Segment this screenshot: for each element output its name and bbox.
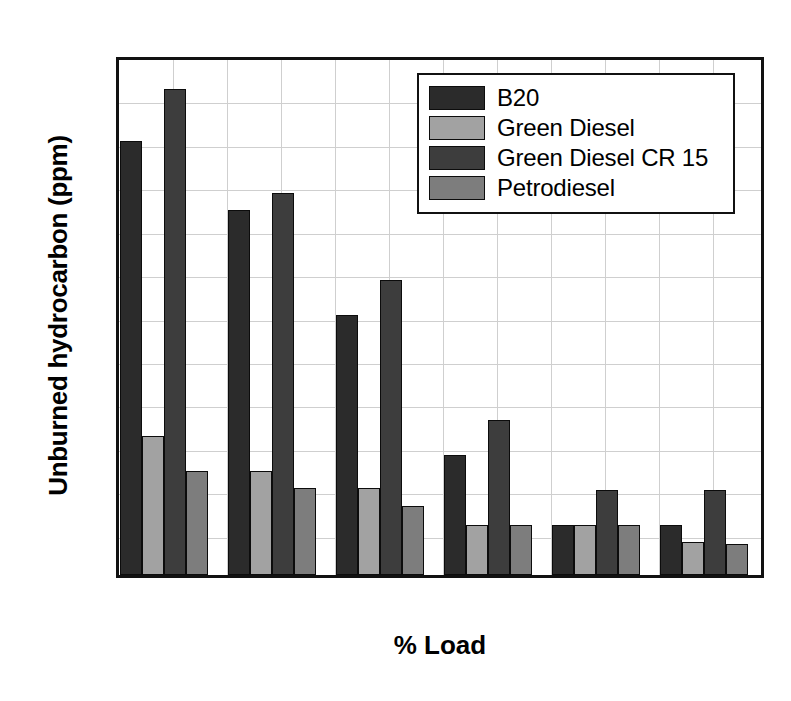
legend-swatch [429,176,485,200]
bar-petrodiesel-80 [618,525,640,575]
bar-green-diesel-cr-15-80 [596,490,618,575]
legend-label: B20 [497,84,539,112]
legend-swatch [429,86,485,110]
y-tick-major [116,493,119,496]
bar-petrodiesel-0 [186,471,208,575]
x-tick-major [280,575,283,578]
bar-petrodiesel-100 [726,544,748,575]
bar-green-diesel-80 [574,525,596,575]
gridline-horizontal [119,407,761,408]
y-tick-major [116,145,119,148]
y-tick-minor [116,189,119,192]
bar-green-diesel-cr-15-40 [380,280,402,575]
gridline-horizontal [119,494,761,495]
y-tick-major [116,59,119,62]
bar-green-diesel-60 [466,525,488,575]
x-tick-major [604,575,607,578]
legend-label: Petrodiesel [497,174,615,202]
y-tick-minor [116,276,119,279]
gridline-horizontal [119,234,761,235]
bar-green-diesel-cr-15-20 [272,193,294,575]
bar-green-diesel-20 [250,471,272,575]
x-tick-minor [334,575,337,578]
x-tick-major [712,575,715,578]
legend-item[interactable]: B20 [429,83,723,113]
y-tick-major [116,319,119,322]
bar-b20-0 [120,141,142,575]
x-tick-minor [550,575,553,578]
gridline-horizontal [119,364,761,365]
bar-chart-figure: Unburned hydrocarbon (ppm) 051015202530 … [0,0,791,701]
gridline-horizontal [119,451,761,452]
legend-label: Green Diesel [497,114,635,142]
bar-petrodiesel-60 [510,525,532,575]
y-tick-minor [116,536,119,539]
y-axis-title: Unburned hydrocarbon (ppm) [43,66,74,566]
bar-green-diesel-100 [682,542,704,575]
chart-legend: B20Green DieselGreen Diesel CR 15Petrodi… [417,73,735,214]
bar-b20-100 [660,525,682,575]
y-tick-minor [116,362,119,365]
x-tick-minor [442,575,445,578]
y-tick-major [116,232,119,235]
y-tick-minor [116,449,119,452]
bar-green-diesel-40 [358,488,380,575]
bar-b20-20 [228,210,250,575]
legend-swatch [429,116,485,140]
gridline-horizontal [119,321,761,322]
x-tick-major [172,575,175,578]
legend-item[interactable]: Petrodiesel [429,173,723,203]
legend-label: Green Diesel CR 15 [497,144,708,172]
y-tick-minor [116,102,119,105]
bar-green-diesel-cr-15-100 [704,490,726,575]
bar-green-diesel-cr-15-0 [164,89,186,575]
legend-item[interactable]: Green Diesel CR 15 [429,143,723,173]
legend-swatch [429,146,485,170]
x-tick-minor [226,575,229,578]
gridline-horizontal [119,277,761,278]
bar-b20-40 [336,315,358,576]
y-tick-major [116,406,119,409]
x-tick-major [388,575,391,578]
bar-b20-60 [444,455,466,575]
bar-b20-80 [552,525,574,575]
legend-item[interactable]: Green Diesel [429,113,723,143]
bar-green-diesel-cr-15-60 [488,420,510,575]
x-tick-major [496,575,499,578]
bar-green-diesel-0 [142,436,164,575]
x-tick-minor [658,575,661,578]
bar-petrodiesel-40 [402,506,424,575]
x-axis-title: % Load [116,630,764,661]
bar-petrodiesel-20 [294,488,316,575]
